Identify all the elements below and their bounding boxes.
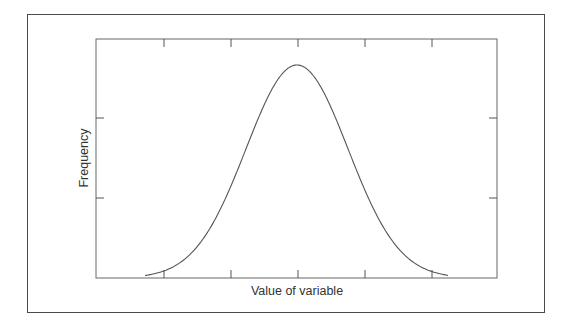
x-axis-label: Value of variable — [0, 284, 576, 298]
distribution-curve — [145, 65, 448, 275]
axis-ticks — [96, 39, 497, 278]
plot-area — [96, 39, 497, 278]
y-axis-label: Frequency — [77, 128, 91, 187]
